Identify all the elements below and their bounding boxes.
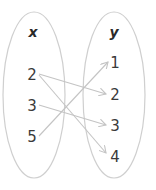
range-value: 4 xyxy=(110,148,120,166)
mapping-arrow-2-to-2 xyxy=(39,74,106,94)
range-value: 1 xyxy=(110,54,120,72)
mapping-arrow-3-to-3 xyxy=(39,105,106,125)
domain-value: 2 xyxy=(27,66,37,84)
mapping-diagram: x y 2 3 5 1 2 3 4 xyxy=(0,0,156,190)
domain-value: 5 xyxy=(27,128,37,146)
domain-set-label: x xyxy=(27,24,38,40)
range-set-label: y xyxy=(109,24,119,40)
range-value: 2 xyxy=(110,86,120,104)
domain-value: 3 xyxy=(27,97,37,115)
mapping-arrow-5-to-1 xyxy=(39,62,108,136)
range-value: 3 xyxy=(110,117,120,135)
mapping-arrow-2-to-4 xyxy=(39,75,106,153)
